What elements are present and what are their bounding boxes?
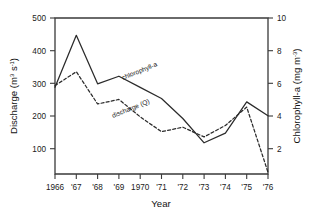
x-tick-72: '72 (177, 183, 188, 192)
left-axis-ticklabels: 500 400 300 200 100 (32, 14, 46, 154)
right-axis-ticks (268, 18, 273, 149)
right-axis-title-main: Chlorophyll-a (mg m (291, 57, 302, 143)
right-tick-8: 8 (277, 47, 282, 56)
right-tick-6: 6 (277, 80, 282, 89)
discharge-chlorophyll-line-chart: 500 400 300 200 100 10 8 6 4 2 (0, 0, 312, 224)
right-tick-2: 2 (277, 145, 282, 154)
plot-area-background (55, 18, 268, 174)
right-axis-ticklabels: 10 8 6 4 2 (277, 14, 287, 154)
left-axis-title-main: Discharge (m (8, 77, 19, 134)
right-tick-10: 10 (277, 14, 287, 23)
left-axis-ticks (50, 18, 55, 149)
right-axis-title-end: ) (291, 49, 302, 52)
x-tick-76: '76 (263, 183, 274, 192)
chart-figure: 500 400 300 200 100 10 8 6 4 2 (0, 0, 312, 224)
left-axis-title-end: ) (8, 58, 19, 61)
x-tick-74: '74 (220, 183, 231, 192)
right-tick-4: 4 (277, 112, 282, 121)
x-tick-1970: 1970 (131, 183, 150, 192)
right-axis-title: Chlorophyll-a (mg m-3) (291, 49, 302, 144)
left-tick-500: 500 (32, 14, 46, 23)
x-tick-1966: 1966 (46, 183, 65, 192)
x-axis-ticks (55, 174, 268, 179)
x-tick-73: '73 (199, 183, 210, 192)
x-tick-67: '67 (71, 183, 82, 192)
left-axis-title: Discharge (m3 s-1) (8, 58, 19, 134)
x-tick-71: '71 (156, 183, 167, 192)
left-tick-200: 200 (32, 112, 46, 121)
x-tick-75: '75 (241, 183, 252, 192)
x-axis-ticklabels: 1966 '67 '68 '69 1970 '71 '72 '73 '74 '7… (46, 183, 274, 192)
x-tick-68: '68 (92, 183, 103, 192)
left-tick-300: 300 (32, 80, 46, 89)
x-axis-title: Year (151, 198, 171, 209)
x-tick-69: '69 (114, 183, 125, 192)
left-tick-400: 400 (32, 47, 46, 56)
left-tick-100: 100 (32, 145, 46, 154)
